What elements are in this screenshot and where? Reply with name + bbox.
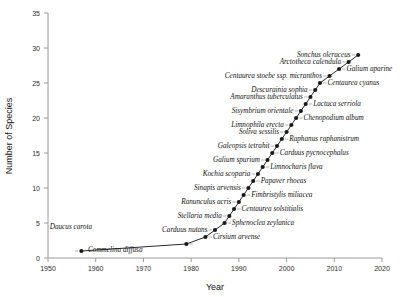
point-label: Lactuca serriola <box>312 100 361 108</box>
data-point <box>213 228 217 232</box>
data-point <box>299 109 303 113</box>
data-point <box>337 67 341 71</box>
y-tick-label: 5 <box>36 220 40 227</box>
y-tick-label: 10 <box>32 185 40 192</box>
point-label: Limnophila erecta <box>230 121 284 129</box>
chart-container: 05101520253035 1950196019701980199020002… <box>0 0 404 297</box>
x-tick-label: 1990 <box>231 265 247 272</box>
point-label: Daucus carota <box>49 223 93 231</box>
y-tick-label: 0 <box>36 255 40 262</box>
data-point <box>347 60 351 64</box>
point-label: Centaurea solstitialis <box>242 205 304 213</box>
point-label: Stellaria media <box>178 212 223 220</box>
point-label: Sphenoclea zeylanica <box>232 219 294 227</box>
species-accumulation-chart: 05101520253035 1950196019701980199020002… <box>0 0 404 297</box>
point-label: Centaurea cyanus <box>327 79 379 87</box>
x-tick-label: 2020 <box>374 265 390 272</box>
point-label: Limnocharis flava <box>269 163 323 171</box>
y-tick-label: 20 <box>32 115 40 122</box>
point-label: Descurainia sophia <box>250 86 308 94</box>
point-label: Galium aparine <box>347 65 394 73</box>
y-tick-label: 35 <box>32 10 40 17</box>
data-point <box>294 116 298 120</box>
x-axis-title: Year <box>206 282 224 292</box>
point-label: Sisymbrium orientale <box>232 107 294 115</box>
x-tick-label: 1960 <box>88 265 104 272</box>
data-point <box>203 235 207 239</box>
data-point <box>184 242 188 246</box>
point-label: Kochia scoparia <box>202 170 251 178</box>
data-point <box>356 53 360 57</box>
point-label: Sinapis arvensis <box>194 184 241 192</box>
point-label: Sonchus oleraceus <box>297 51 351 59</box>
y-tick-label: 15 <box>32 150 40 157</box>
data-point <box>237 200 241 204</box>
data-point <box>308 95 312 99</box>
x-tick-label: 1950 <box>40 265 56 272</box>
data-point <box>327 74 331 78</box>
data-point <box>304 102 308 106</box>
data-point <box>222 221 226 225</box>
point-label: Galium spurium <box>213 156 260 164</box>
data-point <box>265 158 269 162</box>
point-label: Amaranthus tuberculatus <box>229 93 303 101</box>
y-tick-label: 25 <box>32 80 40 87</box>
x-tick-label: 2000 <box>279 265 295 272</box>
point-label: Raphanus raphanistrum <box>288 135 359 143</box>
y-tick-label: 30 <box>32 45 40 52</box>
point-label: Carduus pycnocephalus <box>280 149 349 157</box>
data-point <box>232 207 236 211</box>
data-point <box>313 88 317 92</box>
data-point <box>289 123 293 127</box>
point-label: Cirsium arvense <box>213 233 261 241</box>
data-point <box>261 165 265 169</box>
data-point <box>318 81 322 85</box>
point-label: Arctotheca calendula <box>279 58 342 66</box>
x-tick-label: 1980 <box>183 265 199 272</box>
data-point <box>256 172 260 176</box>
point-label: Soliva sessilis <box>239 128 279 136</box>
x-tick-label: 2010 <box>326 265 342 272</box>
point-label: Commelina diffusa <box>88 246 143 254</box>
point-label: Papaver rhoeas <box>260 177 307 185</box>
point-label: Chenopodium album <box>304 114 364 122</box>
point-label: Centaurea stoebe ssp. micranthos <box>225 72 322 80</box>
point-label: Fimbristylis miliacea <box>250 191 313 199</box>
point-label: Galeopsis tetrahit <box>218 142 271 150</box>
data-point <box>242 193 246 197</box>
data-point <box>79 249 83 253</box>
data-point <box>227 214 231 218</box>
x-tick-label: 1970 <box>136 265 152 272</box>
data-point <box>275 144 279 148</box>
data-point <box>270 151 274 155</box>
point-label: Ranunculus acris <box>180 198 231 206</box>
y-axis-title: Number of Species <box>4 97 14 174</box>
data-point <box>246 186 250 190</box>
data-point <box>280 137 284 141</box>
data-point <box>284 130 288 134</box>
data-point <box>251 179 255 183</box>
point-label: Carduus nutans <box>162 226 208 234</box>
